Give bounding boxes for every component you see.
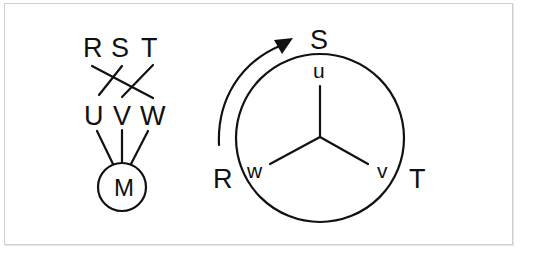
supply-label-t: T bbox=[141, 33, 158, 63]
winding-label-v: v bbox=[377, 159, 388, 182]
right-rotation-diagram: S R T u w v bbox=[213, 25, 426, 222]
phase-label-t: T bbox=[409, 164, 426, 194]
rotation-arrowhead-icon bbox=[274, 38, 293, 54]
rotation-arrow bbox=[219, 45, 282, 145]
terminal-label-u: U bbox=[84, 101, 104, 131]
terminal-label-v: V bbox=[113, 101, 131, 131]
terminal-label-w: W bbox=[140, 101, 166, 131]
supply-label-r: R bbox=[83, 33, 103, 63]
supply-label-s: S bbox=[111, 33, 129, 63]
lead-u bbox=[97, 131, 113, 164]
phase-label-s: S bbox=[310, 25, 328, 55]
winding-label-u: u bbox=[313, 59, 325, 82]
winding-v bbox=[320, 137, 368, 164]
left-wiring-diagram: R S T U V W M bbox=[83, 33, 166, 211]
phase-label-r: R bbox=[213, 164, 233, 194]
motor-label: M bbox=[114, 174, 134, 201]
lead-w bbox=[131, 131, 148, 164]
wiring-diagram: R S T U V W M S R T u w v bbox=[0, 0, 535, 260]
wire-t-to-v bbox=[122, 65, 153, 97]
winding-label-w: w bbox=[246, 159, 263, 182]
winding-w bbox=[270, 137, 320, 164]
